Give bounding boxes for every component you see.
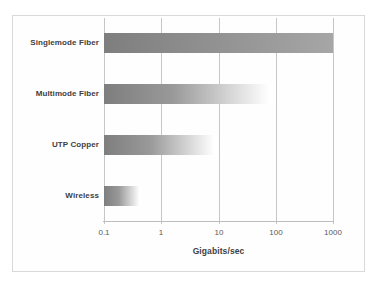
category-label-utp-copper: UTP Copper: [14, 135, 99, 155]
bar-wireless: [104, 186, 141, 206]
gridline-1000: [333, 18, 334, 224]
x-axis-line: [103, 221, 334, 222]
x-axis-title: Gigabits/sec: [104, 246, 333, 256]
category-label-singlemode-fiber: Singlemode Fiber: [14, 33, 99, 53]
category-label-wireless: Wireless: [14, 186, 99, 206]
bar-singlemode-fiber: [104, 33, 333, 53]
x-tick-label-0.1: 0.1: [84, 228, 124, 237]
bar-multimode-fiber: [104, 84, 276, 104]
category-label-multimode-fiber: Multimode Fiber: [14, 84, 99, 104]
x-tick-label-10: 10: [199, 228, 239, 237]
x-tick-label-1000: 1000: [313, 228, 353, 237]
x-tick-label-100: 100: [256, 228, 296, 237]
bar-utp-copper: [104, 135, 219, 155]
x-tick-label-1: 1: [141, 228, 181, 237]
speed-comparison-bar-chart: Gigabits/sec 0.11101001000Singlemode Fib…: [0, 0, 378, 285]
